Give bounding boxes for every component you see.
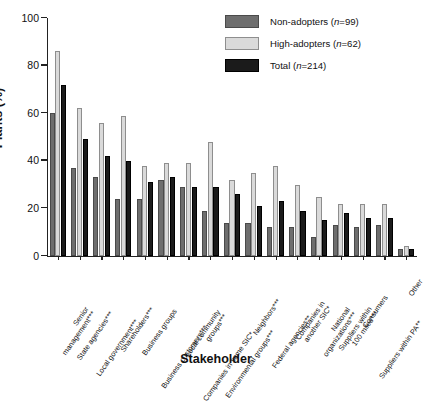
y-tick-label: 20: [27, 203, 39, 214]
bar: [257, 206, 262, 256]
bar: [409, 249, 414, 256]
bar-group: [50, 18, 67, 256]
bar-group: [93, 18, 110, 256]
bar: [55, 51, 60, 256]
bar: [208, 142, 213, 256]
legend-item-total: Total (n=214): [225, 58, 425, 72]
x-tick-label-layer: Senior management***State agencies***Loc…: [47, 258, 417, 358]
bar: [186, 163, 191, 256]
bar: [398, 249, 403, 256]
bar: [360, 204, 365, 256]
bar-group: [137, 18, 154, 256]
bar: [344, 213, 349, 256]
bar: [316, 197, 321, 257]
legend-label-high-adopters: High-adopters (n=62): [270, 38, 361, 49]
bar: [148, 182, 153, 256]
bar: [279, 201, 284, 256]
bar: [170, 177, 175, 256]
bar: [137, 199, 142, 256]
x-tick-label: Local community groups***: [184, 308, 229, 363]
bar: [202, 211, 207, 256]
bar: [376, 225, 381, 256]
bar: [224, 223, 229, 256]
bar: [115, 199, 120, 256]
bar-group: [71, 18, 88, 256]
bar: [121, 116, 126, 256]
bar: [245, 223, 250, 256]
bar: [354, 227, 359, 256]
legend-item-high-adopters: High-adopters (n=62): [225, 36, 425, 50]
bar: [273, 166, 278, 256]
legend-swatch-high-adopters: [225, 37, 259, 50]
bar: [267, 227, 272, 256]
bar: [295, 185, 300, 256]
y-tick-label: 0: [33, 251, 39, 262]
bar-group: [158, 18, 175, 256]
bar: [71, 168, 76, 256]
y-tick-label: 80: [27, 60, 39, 71]
x-tick-label: Suppliers within PA**: [378, 319, 424, 380]
legend-item-non-adopters: Non-adopters (n=99): [225, 14, 425, 28]
bar: [99, 123, 104, 256]
y-tick-label: 40: [27, 156, 39, 167]
legend-swatch-total: [225, 59, 259, 72]
bar: [142, 166, 147, 256]
bar: [251, 173, 256, 256]
bar-group: [115, 18, 132, 256]
bar: [300, 211, 305, 256]
bar: [229, 180, 234, 256]
legend-swatch-non-adopters: [225, 15, 259, 28]
bar: [289, 227, 294, 256]
bar: [338, 204, 343, 256]
bar: [77, 108, 82, 256]
bar-group: [180, 18, 197, 256]
bar: [158, 180, 163, 256]
bar: [213, 187, 218, 256]
bar: [388, 218, 393, 256]
y-tick-label: 100: [21, 13, 39, 24]
bar: [366, 218, 371, 256]
bar-group: [202, 18, 219, 256]
bar: [50, 113, 55, 256]
y-axis-title: Plants (%): [0, 88, 5, 148]
bar: [105, 156, 110, 256]
bar: [404, 246, 409, 256]
x-tick-label: Other: [407, 278, 424, 298]
bar: [322, 220, 327, 256]
bar: [192, 187, 197, 256]
bar: [83, 139, 88, 256]
legend: Non-adopters (n=99) High-adopters (n=62)…: [225, 14, 425, 80]
legend-label-total: Total (n=214): [270, 60, 326, 71]
bar: [333, 225, 338, 256]
y-tick-label: 60: [27, 108, 39, 119]
bar: [235, 194, 240, 256]
legend-label-non-adopters: Non-adopters (n=99): [270, 16, 359, 27]
bar: [382, 204, 387, 256]
bar: [180, 187, 185, 256]
bar: [311, 237, 316, 256]
bar: [164, 163, 169, 256]
bar: [61, 85, 66, 256]
bar: [126, 161, 131, 256]
bar: [93, 177, 98, 256]
